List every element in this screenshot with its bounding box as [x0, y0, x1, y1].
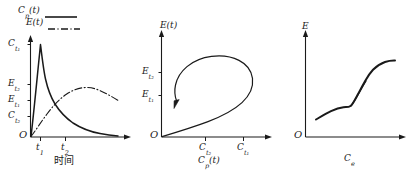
panel-b-xaxis-title: Cp(t) — [198, 156, 220, 165]
panel-c-yaxis-title: E — [302, 22, 309, 31]
panel-c-curve-main — [316, 60, 395, 119]
panel-a-ytick-label-3: Ct₂ — [8, 111, 20, 120]
panel-a-curve-effect — [31, 88, 118, 137]
panel-hysteresis-loop: E(t) Et₂ Et₁ O Ct₂ Ct₁ Cp(t) — [140, 0, 280, 176]
panel-b-curve-hysteresis — [162, 56, 253, 137]
panel-concentration-effect-vs-time: Cp(t) E(t) Ct₁ Et₂ Et₁ Ct₂ O t1 t2 时间 — [0, 0, 140, 176]
panel-b-origin-label: O — [150, 130, 158, 140]
panel-a-axes — [28, 35, 131, 140]
panel-b-xtick-label-0: Ct₂ — [199, 143, 211, 152]
panel-c-curve-residual-branch — [351, 81, 366, 106]
panel-c-axes — [303, 30, 406, 140]
panel-b-ytick-label-1: Et₁ — [142, 90, 154, 99]
legend-swatch-dash-dot — [47, 18, 81, 26]
legend-label-concentration: Cp(t) — [18, 5, 40, 15]
panel-a-curve-concentration — [31, 45, 118, 137]
panel-b-xtick-label-1: Ct₁ — [237, 143, 249, 152]
legend-label-effect: E(t) — [26, 17, 43, 27]
panel-c-xaxis-title: Ce — [344, 154, 355, 163]
panel-a-ytick-label-2: Et₁ — [8, 95, 20, 104]
panel-c-plot — [280, 0, 418, 176]
legend-swatch-solid — [44, 6, 78, 14]
panel-a-xaxis-title: 时间 — [54, 156, 74, 166]
panel-a-origin-label: O — [19, 130, 27, 140]
panel-a-x-ticks — [41, 137, 66, 141]
panel-a-ytick-label-0: Ct₁ — [8, 39, 20, 48]
panel-b-yaxis-title: E(t) — [160, 21, 177, 30]
panel-b-direction-arrowhead — [174, 100, 179, 109]
panel-c-origin-label: O — [294, 130, 302, 140]
panel-b-x-ticks — [206, 137, 244, 141]
legend-entry-effect: E(t) — [26, 17, 81, 27]
panel-a-xtick-label-1: t2 — [61, 143, 69, 152]
panel-effect-site-concentration-response: E O Ce — [280, 0, 418, 176]
panel-b-ytick-label-0: Et₂ — [142, 67, 154, 76]
three-panel-pkpd-figure: Cp(t) E(t) Ct₁ Et₂ Et₁ Ct₂ O t1 t2 时间 — [0, 0, 418, 176]
panel-a-ytick-label-1: Et₂ — [8, 79, 20, 88]
legend-entry-concentration: Cp(t) — [18, 5, 78, 15]
panel-a-xtick-label-0: t1 — [36, 143, 44, 152]
